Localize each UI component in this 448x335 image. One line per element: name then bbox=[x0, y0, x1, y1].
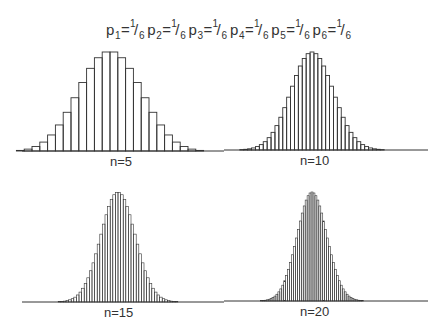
histogram-bar bbox=[134, 234, 137, 302]
panel-label-n-15: n=15 bbox=[104, 305, 133, 320]
histogram-bar bbox=[94, 58, 102, 151]
histogram-bar bbox=[141, 98, 149, 151]
histogram-bar bbox=[365, 147, 369, 150]
histogram-bar bbox=[337, 108, 341, 150]
histogram-bar bbox=[283, 108, 287, 150]
histogram-bar bbox=[165, 135, 173, 151]
histogram-bar bbox=[272, 298, 274, 301]
histogram-bar bbox=[292, 255, 294, 301]
histogram-bar bbox=[361, 145, 365, 150]
histogram-bar bbox=[147, 278, 150, 302]
histogram-bar bbox=[121, 195, 124, 302]
histogram-bar bbox=[180, 147, 188, 151]
histogram-bar bbox=[113, 195, 116, 302]
histogram-bar bbox=[331, 255, 333, 301]
histogram-bar bbox=[188, 149, 196, 151]
histogram-bar bbox=[322, 66, 326, 150]
histogram-bar bbox=[82, 288, 85, 302]
histogram-bar bbox=[294, 76, 298, 150]
histogram-bar bbox=[136, 244, 139, 302]
histogram-bar bbox=[271, 132, 275, 150]
histogram-bar bbox=[154, 292, 157, 302]
histogram-bar bbox=[79, 292, 82, 302]
histogram-bar bbox=[89, 271, 92, 302]
histogram-bar bbox=[291, 86, 295, 150]
histogram-bar bbox=[157, 295, 160, 302]
histogram-bar bbox=[252, 148, 256, 150]
histogram-bar bbox=[48, 135, 56, 151]
histogram-n-20 bbox=[224, 192, 428, 301]
histogram-bar bbox=[71, 98, 79, 151]
histogram-bar bbox=[333, 97, 337, 150]
histogram-bar bbox=[61, 301, 64, 302]
histogram-bar bbox=[95, 254, 98, 302]
histogram-bar bbox=[110, 52, 118, 151]
histogram-bar bbox=[24, 149, 32, 151]
histogram-bar bbox=[32, 147, 40, 151]
histogram-bar bbox=[149, 112, 157, 151]
histogram-bar bbox=[157, 125, 165, 151]
histogram-n-10 bbox=[224, 52, 428, 150]
histogram-bar bbox=[244, 149, 248, 150]
histogram-bar bbox=[259, 145, 263, 150]
histogram-bar bbox=[126, 206, 129, 302]
histogram-bar bbox=[282, 285, 284, 301]
histogram-bar bbox=[350, 298, 352, 301]
histogram-bar bbox=[105, 215, 108, 302]
histogram-bar bbox=[108, 206, 111, 302]
histogram-bar bbox=[139, 254, 142, 302]
histogram-bar bbox=[128, 215, 131, 302]
histogram-bar bbox=[196, 150, 204, 151]
histogram-bar bbox=[255, 147, 259, 150]
histogram-bar bbox=[100, 234, 103, 302]
histogram-bar bbox=[330, 86, 334, 150]
histogram-bar bbox=[372, 149, 376, 150]
histogram-bar bbox=[369, 148, 373, 150]
histogram-bar bbox=[357, 142, 361, 150]
histogram-bar bbox=[326, 76, 330, 150]
histogram-bar bbox=[66, 301, 69, 302]
histogram-bar bbox=[118, 192, 121, 302]
histogram-bar bbox=[349, 132, 353, 150]
histogram-bar bbox=[341, 117, 345, 150]
histogram-bar bbox=[55, 125, 63, 151]
histogram-bar bbox=[102, 224, 105, 302]
histogram-bar bbox=[353, 138, 357, 150]
histogram-bar bbox=[263, 142, 267, 150]
histogram-bar bbox=[306, 54, 310, 150]
histogram-bar bbox=[301, 213, 303, 301]
histogram-bar bbox=[314, 54, 318, 150]
histogram-bar bbox=[311, 192, 313, 301]
histogram-bar bbox=[92, 263, 95, 302]
histogram-n-15 bbox=[22, 192, 224, 302]
histogram-bar bbox=[310, 52, 314, 150]
histogram-bar bbox=[126, 68, 134, 151]
histogram-bar bbox=[131, 224, 134, 302]
histogram-bar bbox=[149, 284, 152, 302]
histogram-bar bbox=[84, 284, 87, 302]
histogram-bar bbox=[79, 82, 87, 151]
histogram-bar bbox=[160, 297, 163, 302]
histogram-bar bbox=[173, 301, 176, 302]
histogram-bar bbox=[275, 126, 279, 150]
histogram-panels bbox=[0, 0, 448, 335]
histogram-bar bbox=[172, 142, 180, 151]
histogram-bar bbox=[74, 297, 77, 302]
histogram-bar bbox=[97, 244, 100, 302]
histogram-bar bbox=[298, 66, 302, 150]
histogram-bar bbox=[133, 82, 141, 151]
histogram-bar bbox=[302, 58, 306, 150]
histogram-bar bbox=[76, 295, 79, 302]
histogram-bar bbox=[110, 200, 113, 302]
panel-label-n-20: n=20 bbox=[300, 304, 329, 319]
histogram-bar bbox=[167, 301, 170, 302]
histogram-bar bbox=[267, 138, 271, 150]
histogram-bar bbox=[118, 58, 126, 151]
histogram-bar bbox=[360, 300, 362, 301]
histogram-bar bbox=[287, 97, 291, 150]
histogram-bar bbox=[376, 149, 380, 150]
histogram-bar bbox=[123, 200, 126, 302]
histogram-bar bbox=[279, 117, 283, 150]
histogram-bar bbox=[16, 150, 24, 151]
histogram-bar bbox=[318, 58, 322, 150]
